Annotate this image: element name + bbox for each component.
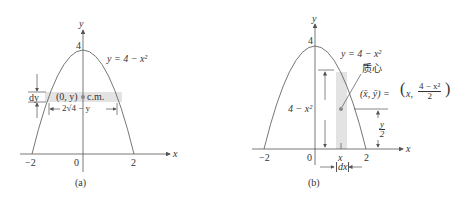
centroid-y-denominator: 2 xyxy=(427,92,432,101)
paren-open: ( xyxy=(400,81,405,97)
dx-label: dx xyxy=(336,162,349,172)
x-axis-label-a: x xyxy=(173,149,177,159)
half-denominator: 2 xyxy=(380,130,385,139)
tick-2-b: 2 xyxy=(364,153,369,163)
centroid-x: x, xyxy=(406,89,413,99)
tick-neg2-a: −2 xyxy=(25,158,36,168)
centroid-dot xyxy=(339,107,343,111)
tick-0-a: 0 xyxy=(74,158,79,168)
height-label: 4 − x² xyxy=(288,104,312,114)
caption-b: (b) xyxy=(308,178,320,188)
paren-close: ) xyxy=(445,81,450,97)
tick-neg2-b: −2 xyxy=(259,153,270,163)
curve-label-a: y = 4 − x² xyxy=(107,54,147,64)
curve-label-b: y = 4 − x² xyxy=(341,49,381,59)
point-label: (0, y) xyxy=(56,92,78,102)
y-axis-label-a: y xyxy=(79,19,83,29)
x-axis-label-b: x xyxy=(406,144,410,154)
cm-label: c.m. xyxy=(87,92,104,102)
centroid-coords-left: (x̄, ȳ) = xyxy=(360,89,390,99)
width-label: 2√4 − y xyxy=(62,104,90,113)
dy-label: dy xyxy=(29,93,39,103)
tick-4-a: 4 xyxy=(76,41,81,51)
y-axis-label-b: y xyxy=(312,14,316,24)
caption-a: (a) xyxy=(75,178,86,188)
tick-2-a: 2 xyxy=(131,158,136,168)
tick-4-b: 4 xyxy=(308,36,313,46)
centroid-y-fraction: 4 − x² 2 xyxy=(418,82,441,101)
centroid-label: 质心 xyxy=(362,64,382,74)
center-of-mass-dot-a xyxy=(81,95,85,99)
tick-0-b: 0 xyxy=(307,153,312,163)
half-fraction: y 2 xyxy=(379,120,385,139)
